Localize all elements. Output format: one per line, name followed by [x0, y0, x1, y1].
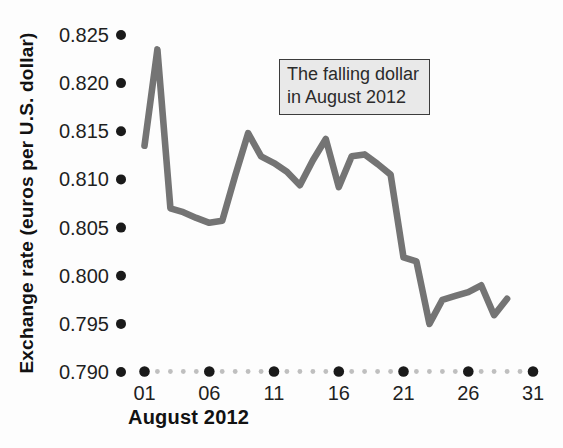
y-axis-tick-dot: [116, 30, 126, 40]
y-axis-tick-dot: [116, 78, 126, 88]
x-axis-minor-dot: [181, 369, 186, 374]
y-axis-tick-dot: [116, 319, 126, 329]
x-axis-minor-dot: [168, 369, 173, 374]
y-axis-tick-label: 0.805: [59, 217, 109, 239]
y-axis-tick-label: 0.795: [59, 313, 109, 335]
y-axis-tick-dot: [116, 126, 126, 136]
x-axis-minor-dot: [220, 369, 225, 374]
y-axis-tick-dot: [116, 271, 126, 281]
x-axis-minor-dot: [492, 369, 497, 374]
x-axis-minor-dot: [349, 369, 354, 374]
x-axis-minor-dot: [194, 369, 199, 374]
annotation-box: The falling dollar in August 2012: [279, 59, 430, 115]
annotation-line1: The falling dollar: [287, 63, 429, 86]
y-axis-tick-label: 0.790: [59, 361, 109, 383]
x-axis-minor-dot: [388, 369, 393, 374]
x-axis-title: August 2012: [128, 406, 249, 429]
x-axis-minor-dot: [259, 369, 264, 374]
x-axis-minor-dot: [323, 369, 328, 374]
x-axis-minor-dot: [233, 369, 238, 374]
x-axis-minor-dot: [298, 369, 303, 374]
y-axis-tick-label: 0.800: [59, 265, 109, 287]
x-axis-minor-dot: [453, 369, 458, 374]
x-axis-tick-label: 26: [457, 382, 479, 404]
x-axis-minor-dot: [311, 369, 316, 374]
x-axis-minor-dot: [375, 369, 380, 374]
y-axis-title: Exchange rate (euros per U.S. dollar): [16, 25, 38, 381]
x-axis-tick-dot: [334, 366, 345, 377]
exchange-rate-chart-figure: 0.8250.8200.8150.8100.8050.8000.7950.790…: [0, 0, 563, 448]
x-axis-minor-dot: [362, 369, 367, 374]
x-axis-minor-dot: [155, 369, 160, 374]
y-axis-tick-dot: [116, 223, 126, 233]
y-axis-tick-label: 0.825: [59, 24, 109, 46]
x-axis-tick-dot: [139, 366, 150, 377]
x-axis-tick-dot: [528, 366, 539, 377]
x-axis-minor-dot: [505, 369, 510, 374]
x-axis-minor-dot: [246, 369, 251, 374]
y-axis-tick-dot: [116, 367, 126, 377]
y-axis-tick-label: 0.820: [59, 72, 109, 94]
x-axis-minor-dot: [479, 369, 484, 374]
x-axis-minor-dot: [427, 369, 432, 374]
x-axis-tick-label: 11: [264, 382, 285, 404]
x-axis-minor-dot: [518, 369, 523, 374]
annotation-line2: in August 2012: [287, 86, 429, 109]
x-axis-tick-dot: [269, 366, 280, 377]
x-axis-tick-dot: [204, 366, 215, 377]
y-axis-tick-label: 0.815: [59, 120, 109, 142]
x-axis-tick-label: 21: [392, 382, 414, 404]
x-axis-tick-label: 01: [133, 382, 155, 404]
x-axis-tick-dot: [463, 366, 474, 377]
x-axis-minor-dot: [440, 369, 445, 374]
x-axis-minor-dot: [285, 369, 290, 374]
x-axis-tick-label: 31: [522, 382, 544, 404]
x-axis-tick-dot: [398, 366, 409, 377]
x-axis-minor-dot: [414, 369, 419, 374]
y-axis-tick-label: 0.810: [59, 168, 109, 190]
x-axis-tick-label: 16: [328, 382, 350, 404]
x-axis-tick-label: 06: [198, 382, 220, 404]
y-axis-tick-dot: [116, 174, 126, 184]
